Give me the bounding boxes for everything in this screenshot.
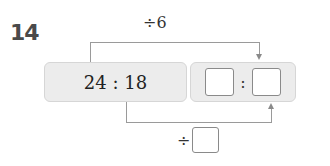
divide-symbol: ÷ <box>177 131 190 150</box>
source-ratio: 24 : 18 <box>84 72 147 93</box>
top-connector-horizontal <box>90 42 260 43</box>
target-ratio-panel: : <box>190 62 296 102</box>
problem-number: 14 <box>10 20 39 45</box>
bottom-operation: ÷ <box>177 127 219 153</box>
bottom-connector-left <box>126 102 127 122</box>
top-operation-label: ÷6 <box>143 13 167 32</box>
arrow-up-icon <box>268 103 274 109</box>
target-right-blank[interactable] <box>252 68 281 96</box>
source-ratio-panel: 24 : 18 <box>44 62 187 102</box>
bottom-connector-right <box>271 108 272 122</box>
bottom-connector-horizontal <box>126 122 272 123</box>
top-connector-left <box>90 42 91 62</box>
arrow-down-icon <box>256 54 262 60</box>
ratio-colon: : <box>240 73 245 92</box>
target-left-blank[interactable] <box>205 68 234 96</box>
bottom-divisor-blank[interactable] <box>192 127 219 153</box>
